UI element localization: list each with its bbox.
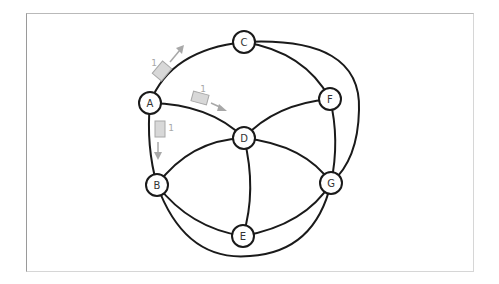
- packet-a-to-b: 1: [155, 121, 174, 137]
- edges: [149, 42, 359, 257]
- packet-label: 1: [168, 123, 174, 133]
- packet-a-to-d: 1: [191, 84, 209, 105]
- svg-text:A: A: [147, 98, 154, 109]
- svg-text:C: C: [241, 37, 248, 48]
- packet-label: 1: [151, 58, 157, 68]
- svg-text:G: G: [327, 178, 335, 189]
- node-b[interactable]: B: [146, 174, 168, 196]
- network-graph: 1 1 1 A B: [0, 0, 499, 284]
- node-e[interactable]: E: [232, 225, 254, 247]
- arrow-down-right-icon: [211, 103, 227, 111]
- packet-a-to-c: 1: [151, 58, 172, 81]
- svg-text:B: B: [154, 180, 161, 191]
- edge-d-b: [157, 138, 244, 185]
- edge-c-g: [244, 42, 359, 183]
- svg-text:F: F: [327, 94, 333, 105]
- arrow-down-icon: [154, 142, 162, 160]
- edge-e-g: [243, 183, 331, 236]
- svg-text:D: D: [240, 133, 248, 144]
- edge-f-g: [330, 99, 335, 183]
- node-d[interactable]: D: [233, 127, 255, 149]
- node-a[interactable]: A: [139, 92, 161, 114]
- edge-c-f: [244, 42, 330, 99]
- edge-d-e: [243, 138, 250, 236]
- edge-d-f: [244, 99, 330, 138]
- edge-d-g: [244, 138, 331, 183]
- edge-a-b: [149, 103, 157, 185]
- node-g[interactable]: G: [320, 172, 342, 194]
- packet-label: 1: [200, 84, 206, 94]
- edge-b-e: [157, 185, 243, 236]
- arrow-up-right-icon: [170, 45, 184, 62]
- node-c[interactable]: C: [233, 31, 255, 53]
- node-f[interactable]: F: [319, 88, 341, 110]
- nodes: A B C D E F G: [139, 31, 342, 247]
- svg-text:E: E: [240, 231, 246, 242]
